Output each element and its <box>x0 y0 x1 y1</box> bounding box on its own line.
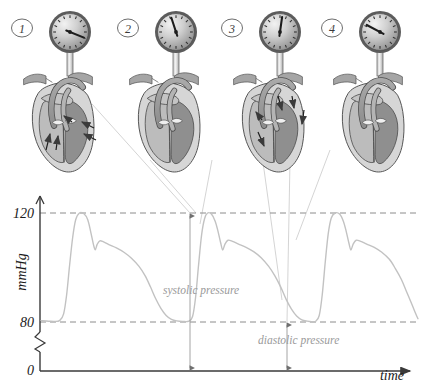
ytick-120: 120 <box>13 206 34 221</box>
gauge-stem <box>67 50 73 76</box>
gauge-hub <box>278 30 282 34</box>
blood-pressure-figure: 1234 120 80 0 mmHg time systolic pressur… <box>0 0 429 383</box>
gauge-hub <box>68 30 72 34</box>
gauge-stem <box>173 50 179 76</box>
systolic-pressure-label: systolic pressure <box>163 284 239 297</box>
panel-number: 2 <box>125 22 131 36</box>
gauge-hub <box>378 30 382 34</box>
panel-number: 1 <box>19 22 25 36</box>
panel-number: 3 <box>228 22 235 36</box>
x-axis-label: time <box>380 368 404 383</box>
ytick-80: 80 <box>20 315 34 330</box>
gauge-hub <box>174 30 178 34</box>
figure-background <box>0 0 429 383</box>
panel-number: 4 <box>329 22 335 36</box>
ytick-0: 0 <box>27 363 34 378</box>
gauge-stem <box>377 50 383 76</box>
diastolic-pressure-label: diastolic pressure <box>258 334 339 347</box>
gauge-stem <box>277 50 283 76</box>
y-axis-label: mmHg <box>14 253 29 290</box>
